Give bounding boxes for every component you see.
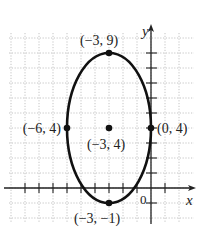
point-marker	[148, 125, 155, 132]
x-axis-label: x	[185, 192, 193, 208]
point-marker	[106, 50, 113, 57]
point-label: (−3, 4)	[87, 137, 126, 153]
point-label: (−6, 4)	[23, 121, 62, 137]
point-label: (−3, −1)	[74, 211, 120, 227]
origin-label: 0	[140, 192, 147, 207]
point-marker	[106, 125, 113, 132]
point-marker	[106, 200, 113, 207]
point-label: (0, 4)	[157, 121, 188, 137]
point-marker	[64, 125, 71, 132]
y-axis-label: y	[140, 23, 149, 39]
point-label: (−3, 9)	[80, 33, 119, 49]
ellipse-plot: (−3, 9)(−6, 4)(−3, 4)(0, 4)(−3, −1) x y …	[0, 0, 209, 232]
labeled-points: (−3, 9)(−6, 4)(−3, 4)(0, 4)(−3, −1)	[23, 33, 188, 227]
